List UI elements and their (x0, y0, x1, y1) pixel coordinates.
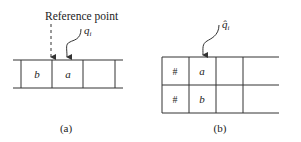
q-hat-pointer-arrow (203, 25, 219, 55)
caption-a: (a) (60, 122, 73, 135)
caption-b: (b) (214, 122, 227, 135)
tape-cell: a (199, 65, 205, 77)
tape-cell: b (34, 68, 40, 80)
tape-cell: b (199, 93, 205, 105)
diagram-canvas: Reference point qi b a (a) q̂i # a # b (… (0, 0, 301, 142)
q-pointer-arrow (67, 29, 81, 57)
figure-b: q̂i # a # b (b) (162, 18, 279, 135)
tape-cell: # (173, 66, 178, 77)
tape-cell: a (65, 68, 71, 80)
figure-a: Reference point qi b a (a) (13, 10, 123, 135)
tape-cell: # (173, 94, 178, 105)
q-label: qi (84, 24, 92, 38)
q-hat-label: q̂i (222, 18, 230, 32)
reference-point-label: Reference point (45, 10, 119, 23)
